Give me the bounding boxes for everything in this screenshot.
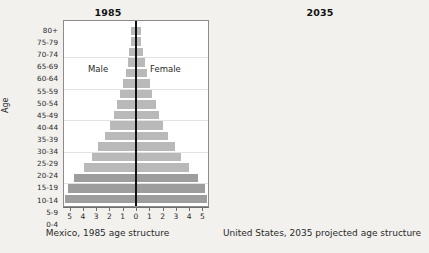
- left-plot-area: [63, 20, 209, 207]
- left-chart-caption: Mexico, 1985 age structure: [0, 228, 215, 238]
- axis-tick-label: 2: [160, 212, 165, 221]
- axis-tick: [149, 207, 150, 211]
- left-chart-panel: 1985 Age 80+75-7970-7465-6960-6455-5950-…: [0, 0, 215, 253]
- category-label: 75-79: [12, 37, 60, 49]
- category-label: 65-69: [12, 61, 60, 73]
- category-label: 80+: [12, 25, 60, 37]
- bar-male: [68, 184, 136, 192]
- axis-tick: [123, 207, 124, 211]
- bar-female: [136, 184, 205, 192]
- axis-tick-label: 5: [67, 212, 72, 221]
- bar-male: [120, 90, 136, 98]
- bar-female: [136, 37, 141, 45]
- bar-female: [136, 163, 189, 171]
- left-chart-title: 1985: [18, 7, 198, 18]
- right-chart-panel: 2035 Birth years Male Female before 1951…: [215, 0, 429, 253]
- bar-female: [136, 195, 207, 203]
- bar-female: [136, 142, 175, 150]
- axis-tick-label: 5: [200, 212, 205, 221]
- bar-male: [92, 153, 137, 161]
- left-male-label: Male: [88, 64, 108, 74]
- axis-tick-label: 3: [173, 212, 178, 221]
- axis-tick: [96, 207, 97, 211]
- category-label: 30-34: [12, 146, 60, 158]
- bar-female: [136, 174, 198, 182]
- bar-male: [117, 100, 136, 108]
- axis-tick-label: 4: [187, 212, 192, 221]
- right-chart-caption: United States, 2035 projected age struct…: [215, 228, 429, 238]
- bar-male: [114, 111, 136, 119]
- axis-tick-label: 2: [107, 212, 112, 221]
- category-label: 35-39: [12, 134, 60, 146]
- axis-tick-label: 1: [120, 212, 125, 221]
- bar-male: [65, 195, 136, 203]
- bar-female: [136, 79, 150, 87]
- axis-tick-label: 4: [81, 212, 86, 221]
- category-label: 5-9: [12, 207, 60, 219]
- population-pyramid-figure: 1985 Age 80+75-7970-7465-6960-6455-5950-…: [0, 0, 429, 253]
- bar-female: [136, 90, 152, 98]
- category-label: 20-24: [12, 170, 60, 182]
- bar-male: [74, 174, 136, 182]
- bar-female: [136, 121, 163, 129]
- bar-male: [110, 121, 136, 129]
- bar-male: [105, 132, 136, 140]
- bar-male: [98, 142, 136, 150]
- axis-tick: [176, 207, 177, 211]
- bar-female: [136, 111, 159, 119]
- bar-male: [123, 79, 136, 87]
- axis-tick-label: 1: [147, 212, 152, 221]
- category-label: 50-54: [12, 98, 60, 110]
- left-y-axis-title: Age: [1, 98, 10, 113]
- axis-tick: [163, 207, 164, 211]
- category-label: 70-74: [12, 49, 60, 61]
- category-label: 40-44: [12, 122, 60, 134]
- axis-tick: [83, 207, 84, 211]
- axis-tick: [202, 207, 203, 211]
- bar-female: [136, 100, 156, 108]
- bar-female: [136, 153, 181, 161]
- left-category-labels: 80+75-7970-7465-6960-6455-5950-5445-4940…: [12, 25, 60, 231]
- axis-tick-label: 0: [134, 212, 139, 221]
- left-female-label: Female: [150, 64, 181, 74]
- category-label: 45-49: [12, 110, 60, 122]
- left-center-axis-line: [135, 21, 137, 206]
- axis-tick-label: 3: [94, 212, 99, 221]
- bar-male: [84, 163, 136, 171]
- axis-tick: [109, 207, 110, 211]
- bar-female: [136, 69, 147, 77]
- category-label: 15-19: [12, 182, 60, 194]
- axis-tick: [70, 207, 71, 211]
- category-label: 10-14: [12, 195, 60, 207]
- left-x-axis: 54321012345: [63, 207, 209, 225]
- bar-female: [136, 132, 168, 140]
- bar-female: [136, 48, 143, 56]
- category-label: 25-29: [12, 158, 60, 170]
- bar-female: [136, 58, 145, 66]
- category-label: 55-59: [12, 86, 60, 98]
- category-label: 60-64: [12, 73, 60, 85]
- axis-tick: [189, 207, 190, 211]
- right-chart-title: 2035: [225, 7, 415, 18]
- axis-tick: [136, 207, 137, 211]
